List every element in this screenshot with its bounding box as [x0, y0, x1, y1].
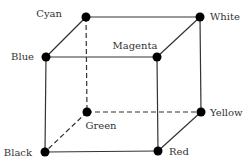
label-black: Black	[4, 147, 33, 158]
edge-green-black	[45, 112, 87, 152]
vertex-green	[83, 108, 92, 117]
vertex-yellow	[197, 108, 206, 117]
vertex-cyan	[82, 13, 91, 22]
label-blue: Blue	[11, 51, 34, 62]
label-green: Green	[85, 120, 117, 131]
edge-cyan-green	[86, 17, 87, 112]
label-cyan: Cyan	[36, 8, 62, 19]
vertex-white	[196, 13, 205, 22]
edge-magenta-red	[157, 57, 158, 151]
vertex-black	[41, 148, 50, 157]
vertex-magenta	[153, 53, 162, 62]
edge-white-yellow	[200, 17, 201, 112]
edge-white-magenta	[157, 17, 200, 57]
label-white: White	[210, 11, 240, 22]
edge-black-red	[45, 151, 158, 152]
vertex-labels: CyanWhiteBlueMagentaGreenYellowBlackRed	[4, 8, 243, 158]
label-magenta: Magenta	[113, 40, 158, 51]
vertex-blue	[42, 53, 51, 62]
cube-edges	[45, 17, 201, 152]
label-yellow: Yellow	[209, 107, 243, 118]
vertex-red	[154, 147, 163, 156]
label-red: Red	[169, 146, 189, 157]
rgb-color-cube-diagram: CyanWhiteBlueMagentaGreenYellowBlackRed	[0, 0, 250, 163]
edge-blue-black	[45, 57, 46, 152]
edge-cyan-blue	[46, 17, 86, 57]
